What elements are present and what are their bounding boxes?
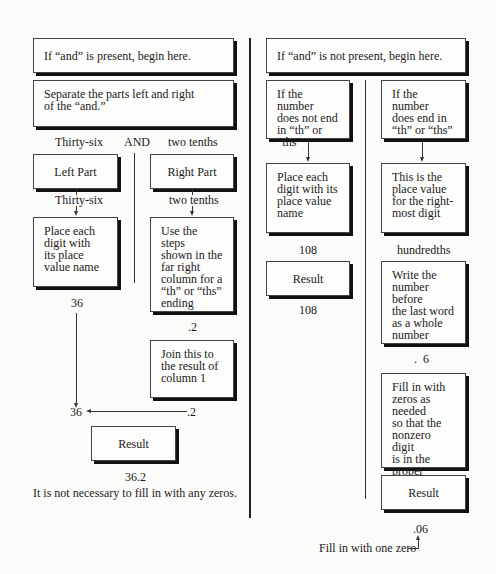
col2-place-value: hundredths <box>397 243 450 258</box>
arrow-down-icon <box>420 157 424 162</box>
col1-result-box: Result <box>266 261 350 296</box>
join-connector-line <box>90 411 187 412</box>
left-final-value: 36.2 <box>125 470 146 485</box>
col2-write-value: . 6 <box>414 352 429 367</box>
left-note: It is not necessary to fill in with any … <box>33 486 237 501</box>
join-left-value: 36 <box>70 405 82 420</box>
connector-line <box>308 142 309 157</box>
join-box: Join this to the result of column 1 <box>150 340 234 398</box>
col2-result-box: Result <box>381 475 466 510</box>
separate-parts-box: Separate the parts left and right of the… <box>33 80 234 127</box>
center-divider <box>249 38 251 518</box>
split-label-right: two tenths <box>168 135 218 150</box>
right-part-box: Right Part <box>150 154 234 189</box>
left-part-result: 36 <box>71 296 83 311</box>
col1-final-value: 108 <box>299 303 317 318</box>
split-label-left: Thirty-six <box>55 135 103 150</box>
left-parts-divider <box>134 153 135 283</box>
right-part-value-label: two tenths <box>169 193 219 208</box>
connector-line <box>76 313 77 405</box>
col1-condition-box: If the number does not end in “th” or “t… <box>266 80 350 139</box>
right-part-result: .2 <box>188 320 197 335</box>
right-columns-divider <box>365 80 366 499</box>
arrow-down-icon <box>74 211 78 216</box>
right-part-step-box: Use the steps shown in the far right col… <box>150 217 234 312</box>
arrow-down-icon <box>190 211 194 216</box>
left-part-box: Left Part <box>33 154 118 189</box>
col2-fill-box: Fill in with zeros as needed so that the… <box>381 373 466 468</box>
col1-step-box: Place each digit with its place value na… <box>266 163 350 233</box>
col2-place-box: This is the place value for the right- m… <box>381 163 466 233</box>
col2-write-box: Write the number before the last word as… <box>381 261 466 344</box>
left-result-box: Result <box>91 426 176 461</box>
split-label-and: AND <box>124 135 150 150</box>
left-part-step-box: Place each digit with its place value na… <box>33 217 118 287</box>
col2-annotation: Fill in with one zero <box>319 541 416 556</box>
col1-value: 108 <box>299 243 317 258</box>
arrow-down-icon <box>306 157 310 162</box>
connector-line <box>422 142 423 157</box>
and-not-present-start-box: If “and” is not present, begin here. <box>266 38 466 73</box>
and-present-start-box: If “and” is present, begin here. <box>33 38 234 73</box>
join-right-value: .2 <box>187 405 196 420</box>
col2-condition-box: If the number does end in “th” or “ths” <box>381 80 466 139</box>
left-part-value-label: Thirty-six <box>55 193 103 208</box>
